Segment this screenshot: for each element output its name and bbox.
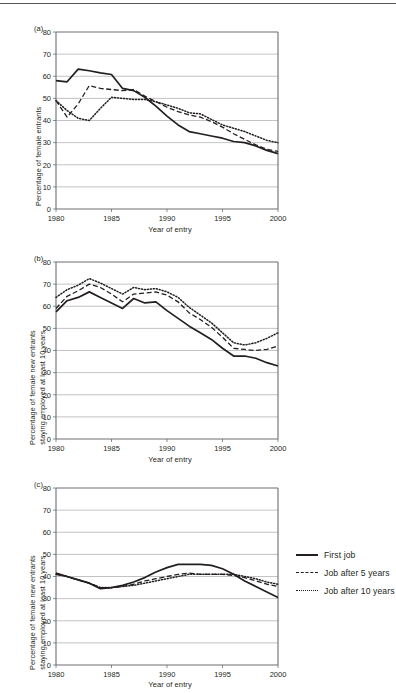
series-line-solid — [56, 564, 278, 597]
y-tick-label: 20 — [43, 617, 51, 626]
legend-item-first-job: First job — [296, 546, 396, 564]
chart-panel-a: (a) Percentage of female entrants 010203… — [0, 10, 396, 238]
x-tick-label: 1980 — [48, 670, 65, 679]
x-tick-label: 1985 — [103, 214, 120, 223]
x-tick-label: 1990 — [159, 214, 176, 223]
y-tick-label: 40 — [43, 116, 51, 125]
y-tick-label: 30 — [43, 138, 51, 147]
y-tick-label: 10 — [43, 413, 51, 422]
x-tick-label: 1980 — [48, 444, 65, 453]
chart-legend: First job Job after 5 years Job after 10… — [296, 546, 396, 600]
panel-a-x-axis-label: Year of entry — [110, 225, 230, 234]
x-tick-label: 1995 — [214, 444, 231, 453]
panel-b-plot: 0102030405060708019801985199019952000 — [0, 240, 396, 468]
legend-dotted-line-icon — [296, 586, 318, 596]
legend-item-job-after-5-years: Job after 5 years — [296, 564, 396, 582]
x-tick-label: 1990 — [159, 670, 176, 679]
panel-a-plot: 0102030405060708019801985199019952000 — [0, 10, 396, 238]
y-tick-label: 50 — [43, 550, 51, 559]
y-tick-label: 80 — [43, 28, 51, 37]
y-tick-label: 10 — [43, 183, 51, 192]
x-tick-label: 2000 — [270, 670, 287, 679]
series-line-dotted — [56, 97, 278, 142]
x-tick-label: 2000 — [270, 444, 287, 453]
legend-label-first-job: First job — [324, 550, 355, 560]
x-tick-label: 1980 — [48, 214, 65, 223]
y-tick-label: 80 — [43, 258, 51, 267]
y-tick-label: 50 — [43, 324, 51, 333]
series-line-dashed — [56, 86, 278, 152]
legend-dashed-line-icon — [296, 568, 318, 578]
x-tick-label: 1985 — [103, 670, 120, 679]
y-tick-label: 70 — [43, 506, 51, 515]
series-line-dotted — [56, 279, 278, 345]
y-tick-label: 30 — [43, 594, 51, 603]
y-tick-label: 60 — [43, 302, 51, 311]
panel-c-x-axis-label: Year of entry — [110, 680, 230, 689]
series-line-dashed — [56, 284, 278, 350]
series-line-solid — [56, 69, 278, 154]
y-tick-label: 10 — [43, 639, 51, 648]
x-tick-label: 1985 — [103, 444, 120, 453]
y-tick-label: 60 — [43, 528, 51, 537]
y-tick-label: 50 — [43, 94, 51, 103]
panel-b-x-axis-label: Year of entry — [110, 455, 230, 464]
y-tick-label: 0 — [47, 661, 51, 670]
legend-item-job-after-10-years: Job after 10 years — [296, 582, 396, 600]
y-tick-label: 40 — [43, 346, 51, 355]
y-tick-label: 20 — [43, 161, 51, 170]
page-top-rule — [0, 3, 396, 4]
x-tick-label: 1995 — [214, 214, 231, 223]
x-tick-label: 1995 — [214, 670, 231, 679]
y-tick-label: 20 — [43, 391, 51, 400]
y-tick-label: 80 — [43, 484, 51, 493]
y-tick-label: 70 — [43, 280, 51, 289]
y-tick-label: 40 — [43, 572, 51, 581]
series-line-solid — [56, 292, 278, 366]
y-tick-label: 0 — [47, 205, 51, 214]
y-tick-label: 30 — [43, 368, 51, 377]
y-tick-label: 0 — [47, 435, 51, 444]
legend-label-job-after-5-years: Job after 5 years — [324, 568, 390, 578]
legend-label-job-after-10-years: Job after 10 years — [324, 586, 395, 596]
x-tick-label: 2000 — [270, 214, 287, 223]
y-tick-label: 60 — [43, 72, 51, 81]
x-tick-label: 1990 — [159, 444, 176, 453]
legend-solid-line-icon — [296, 550, 318, 560]
y-tick-label: 70 — [43, 50, 51, 59]
chart-panel-b: (b) Percentage of female new entrants st… — [0, 240, 396, 468]
